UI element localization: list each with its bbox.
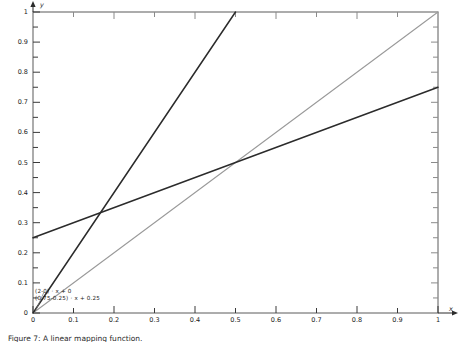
x-tick-label: 0.1	[68, 317, 78, 324]
x-tick-label: 0	[31, 317, 35, 324]
figure-container: 0 0.1 0.2 0.3 0.4 0.5 0.6 0.7 0.8 0.9 1 …	[0, 0, 466, 342]
figure-caption: Figure 7: A linear mapping function.	[8, 334, 458, 342]
y-tick-label: 0.5	[14, 159, 28, 166]
y-tick-label: 0	[14, 310, 28, 317]
series-line-steep	[33, 12, 236, 313]
y-tick-label: 0.9	[14, 39, 28, 46]
y-axis-label: y	[40, 2, 44, 9]
y-tick-label: 0.2	[14, 249, 28, 256]
x-tick-label: 0.9	[392, 317, 402, 324]
y-tick-label: 0.7	[14, 99, 28, 106]
x-tick-label: 0.6	[271, 317, 281, 324]
x-axis-ticks	[33, 306, 438, 313]
y-tick-label: 0.1	[14, 279, 28, 286]
x-tick-label: 0.8	[352, 317, 362, 324]
y-tick-label: 0.3	[14, 219, 28, 226]
y-tick-label: 0.6	[14, 129, 28, 136]
equation-annotations: (2-0) · x + 0 (0.75-0.25) · x + 0.25	[35, 288, 215, 302]
series-line-shallow	[33, 87, 438, 238]
y-axis-ticks	[33, 12, 40, 313]
x-tick-label: 1	[436, 317, 440, 324]
y-axis-arrow-icon	[30, 1, 35, 12]
y-tick-label: 0.8	[14, 69, 28, 76]
x-tick-label: 0.4	[190, 317, 200, 324]
annotation-equation-steep: (2-0) · x + 0	[35, 288, 215, 295]
x-axis-label: x	[449, 306, 453, 313]
x-axis-arrow-icon	[438, 310, 458, 315]
x-tick-label: 0.5	[230, 317, 240, 324]
y-tick-label: 0.4	[14, 189, 28, 196]
x-tick-label: 0.7	[311, 317, 321, 324]
x-tick-label: 0.2	[109, 317, 119, 324]
x-tick-label: 0.3	[149, 317, 159, 324]
y-tick-label: 1	[14, 9, 28, 16]
y-axis-ticks-right	[431, 27, 438, 298]
annotation-equation-shallow: (0.75-0.25) · x + 0.25	[35, 295, 215, 302]
